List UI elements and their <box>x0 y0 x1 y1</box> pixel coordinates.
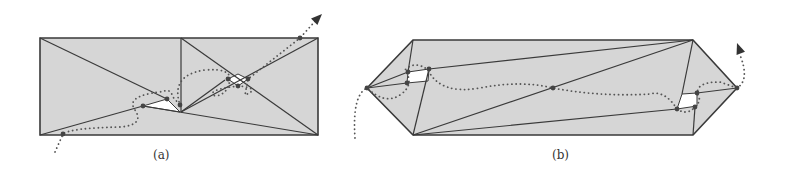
crossing-point <box>405 81 410 86</box>
crossing-point <box>693 105 698 110</box>
crossing-point <box>365 86 370 91</box>
crossing-point <box>406 70 411 75</box>
crossing-point <box>178 103 183 108</box>
polygon-outline <box>40 38 318 135</box>
crossing-point <box>735 86 740 91</box>
crossing-point <box>675 107 680 112</box>
crossing-point <box>298 36 303 41</box>
figure-canvas <box>0 0 792 181</box>
crossing-point <box>551 86 556 91</box>
arrowhead-icon <box>733 41 745 54</box>
caption-b: (b) <box>552 148 569 162</box>
arrowhead-icon <box>311 11 325 25</box>
panel-b-polygon-triangulation <box>355 40 745 138</box>
crossing-point <box>427 67 432 72</box>
panel-a-polygon-triangulation <box>40 11 325 152</box>
crossing-point <box>165 97 170 102</box>
crossing-point <box>246 77 251 82</box>
crossing-point <box>226 77 231 82</box>
caption-a: (a) <box>153 148 170 162</box>
crossing-point <box>141 104 146 109</box>
crossing-point <box>236 84 241 89</box>
crossing-point <box>61 132 66 137</box>
crossing-point <box>695 91 700 96</box>
